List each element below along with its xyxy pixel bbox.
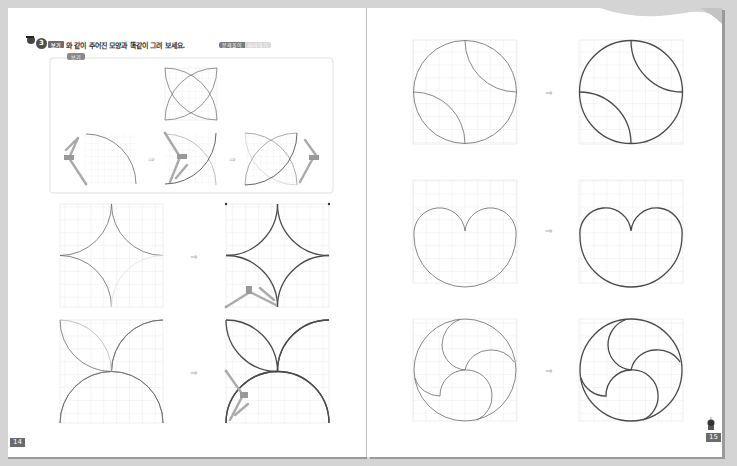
svg-text:⇒: ⇒ [190, 368, 198, 378]
problem-instruction: 보기와 같이 주어진 모양과 똑같이 그려 보세요. [48, 40, 185, 50]
exercise-heart-answer [579, 180, 683, 287]
example-box-label: 보기 [67, 53, 85, 60]
problem-tag: 문제풀이따라하기 [219, 41, 271, 48]
instruction-text: 와 같이 주어진 모양과 똑같이 그려 보세요. [66, 42, 185, 50]
page-number-left: 14 [10, 438, 25, 447]
example-step-2 [164, 132, 217, 185]
exercise-circle-arcs-given [413, 40, 517, 144]
svg-text:⇒: ⇒ [148, 155, 155, 164]
svg-text:⇒: ⇒ [229, 155, 236, 164]
svg-text:⇒: ⇒ [545, 226, 553, 236]
exercise-circle-arcs-answer [579, 40, 683, 144]
page-number-right: 15 [706, 433, 721, 442]
svg-text:⇒: ⇒ [190, 252, 198, 262]
exercise-swirl-given [413, 319, 517, 421]
tag-primary: 문제풀이 [219, 42, 245, 48]
exercise-flower-answer [225, 320, 329, 423]
tag-secondary: 따라하기 [245, 42, 271, 48]
problem-number: 3 [36, 38, 47, 49]
mascot-icon [708, 417, 715, 430]
page-artwork: ⇒ ⇒ [0, 0, 737, 466]
exercise-swirl-answer [579, 319, 683, 421]
example-target-shape [165, 68, 217, 120]
exercise-astroid-answer [225, 203, 330, 308]
exercise-flower-given [60, 320, 163, 423]
svg-text:⇒: ⇒ [545, 88, 553, 98]
exercise-astroid-given [60, 204, 163, 307]
example-box: ⇒ ⇒ [50, 58, 333, 193]
svg-text:⇒: ⇒ [545, 366, 553, 376]
example-badge: 보기 [48, 41, 64, 48]
problem-mascot-icon [26, 36, 35, 44]
exercise-heart-given [413, 180, 517, 287]
